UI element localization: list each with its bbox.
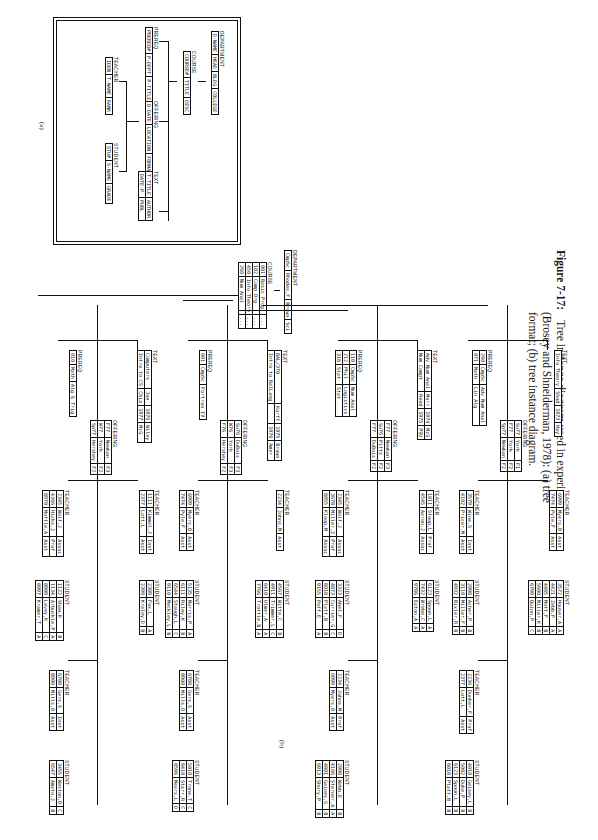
student-record-group: STUDENT2998Webb,EB4166Sterner,AA4801Gain… <box>315 760 350 818</box>
connector <box>508 340 548 341</box>
record-row: 3572Houser,AA <box>557 581 564 635</box>
teacher-record-group-record: 3579Wine,SInst4102Pricer,MAsst <box>459 490 474 554</box>
teacher-record-group-record: 2345Wolf,JAssoc3678Miller,ZProf8855Kloop… <box>322 490 344 557</box>
record-row: 6799Quinn,PC <box>529 581 536 635</box>
record-row: Intro to BalLang1976Amer <box>268 351 275 461</box>
record-row: 2234Johns,MAsst <box>277 491 284 551</box>
record-row: 5600Miller,KB <box>536 581 543 635</box>
connector <box>468 340 508 341</box>
connector <box>198 480 228 481</box>
teacher-record-group-record: 2345Wolf,JAssoc4366Hicks,JProf8970Mottle… <box>42 490 64 557</box>
record-row: 2345Wolf,JAssoc <box>57 491 64 557</box>
teacher-record-group: TEACHER2345Wolf,JAssoc3678Miller,ZProf88… <box>322 490 350 557</box>
offering-record-group-record: Su77YorkF1F77YorkF2Sp77NewkanF2 <box>500 420 522 472</box>
student-record-group-record: 3455Weston,OC6547Amato,JB <box>49 760 64 815</box>
record-row: 212PhilLogistics <box>343 351 350 417</box>
record-row: 6123Spoon,LB <box>453 761 460 815</box>
teacher-record-group: TEACHER2234Johns,MAsst <box>276 490 290 551</box>
student-record-group-record: 5010Trone,TC8410Starr,RC8596Mears,LD <box>172 760 194 812</box>
connector <box>68 480 98 481</box>
text-record-group: TEXTInfo TheoryShod1973Hay <box>554 350 568 437</box>
record-row: F77DuBoisF2 <box>371 421 378 472</box>
offering-record-group-record: Su76DuBoisF3W76YorkF3F76HersheyF2 <box>220 420 242 475</box>
record-row: 4485Mott,FB <box>543 581 550 635</box>
connector <box>68 660 98 661</box>
record-row: 5002Duke,PB <box>460 761 467 815</box>
connector <box>97 305 98 805</box>
student-record-group-record: 3323Abel,FD4873Currier,GC8018Platt,BB915… <box>315 580 344 638</box>
teacher-record-group: TEACHER2234Johns,MProf6999Myers,OAsst <box>329 670 350 731</box>
connector <box>198 660 228 661</box>
record-row: Info TheoryShod1973Hay <box>555 351 562 437</box>
connector <box>378 480 418 481</box>
connector <box>137 340 138 350</box>
connector <box>417 340 418 350</box>
record-row: 8596Mears,LD <box>173 761 180 812</box>
connector <box>227 305 228 805</box>
record-row: 3323Abel,FD <box>337 581 344 638</box>
record-row: F77NewkanF3 <box>385 421 392 472</box>
teacher-record-group: TEACHER3579Wine,SInst4102Pricer,MAsst <box>459 490 480 554</box>
record-row: 2345Wolf,JAssoc <box>337 491 344 557</box>
record-row: 6788Gers,SAsst <box>187 671 194 731</box>
record-row: Num ComptReed1975PSU <box>418 351 425 440</box>
connector <box>377 305 378 805</box>
student-record-group: STUDENT5010Trone,TC8410Starr,RC8596Mears… <box>172 760 200 812</box>
text-record-group-record: BAL/370Korff1975BrownIntro to BalLang197… <box>267 350 282 461</box>
student-record-group: STUDENT3572Houser,AA4421Zebb,FA4485Mott,… <box>528 580 570 635</box>
record-row: Su77YorkF1 <box>515 421 522 472</box>
record-row: 6544Staugh,LC <box>173 581 180 638</box>
connector <box>228 340 268 341</box>
record-row: 3678Miller,ZProf <box>330 491 337 557</box>
record-row: Sp77HersheyF2 <box>91 421 98 475</box>
record-row: 260CmpScAdv Num Anal <box>480 351 487 426</box>
record-row: 001CmpScFortran IV <box>200 351 207 420</box>
student-record-group-record: 1122Shaw,KB1134Arbuckle,PA8909Levey,KC89… <box>35 580 64 641</box>
record-row: W77YorkF2 <box>98 421 105 475</box>
record-row: Sp77NewkanF2 <box>501 421 508 472</box>
text-record-group: TEXTBAL/370Korff1975BrownIntro to BalLan… <box>267 350 288 461</box>
student-record-group-record: 5135Morris,PA6111Riley,KB6544Staugh,LC91… <box>165 580 194 638</box>
record-row: 9155Poff,EA <box>316 581 323 638</box>
record-row: 8410Starr,RC <box>180 761 187 812</box>
record-row: 6410Ulmer,AA <box>263 581 270 638</box>
student-record-group-record: 2998Webb,EB4166Sterner,AA4801Gaines,GB69… <box>315 760 344 818</box>
teacher-record-group-record: 6999Myers,OAsst7474Pyle,FAsst <box>549 490 564 551</box>
record-row: 8997Kramer,TA <box>36 581 43 641</box>
record-row: 4801Gaines,GB <box>323 761 330 818</box>
connector <box>228 480 268 481</box>
student-record-group: STUDENT1122Shaw,KB1134Arbuckle,PA8909Lev… <box>35 580 70 641</box>
record-row: 3455Weston,OC <box>57 761 64 815</box>
student-record-group-record: 4567Witte,CB4911Trimmer,LC6410Ulmer,AA77… <box>255 580 284 638</box>
prereq-record-group-record: 010MathAlg & Trig <box>69 350 77 417</box>
record-row: F77YorkF2 <box>508 421 515 472</box>
connector <box>478 660 508 661</box>
record-row: 6999Myers,OAsst <box>330 671 337 731</box>
teacher-record-group: TEACHER2236Dunker,FProf2377Lott,LAsst <box>459 670 480 734</box>
record-row: 8900Mills,OAsst <box>50 671 57 731</box>
course-branch: PREREQ110CmpScNum Anal212PhilLogistics31… <box>298 0 448 840</box>
record-row: 110CmpScNum Anal <box>350 351 357 417</box>
record-row: 8018Platt,BB <box>323 581 330 638</box>
record-row: 4010Geisey,LB <box>467 761 474 815</box>
student-record-group: STUDENT5135Morris,PA6111Riley,KB6544Stau… <box>165 580 200 638</box>
student-record-group: STUDENT3323Abel,FD4873Currier,GC8018Plat… <box>315 580 350 638</box>
prereq-record-group: PREREQ010MathAlg & Trig <box>69 350 83 417</box>
record-row: 2236Dunker,FProf <box>467 671 474 734</box>
student-record-group-record: 3572Houser,AA4421Zebb,FA4485Mott,FB5600M… <box>528 580 564 635</box>
offering-record-group: OFFERINGF77NewkanF3Su76PittsF2F77DuBoisF… <box>370 420 398 472</box>
teacher-record-group-record: 6999Myers,OAsst7474Pyle,FAsst <box>179 490 194 551</box>
prereq-record-group-record: 260CmpScAdv Num Anal071MathLin Alg <box>472 350 487 426</box>
record-row: 4911Trimmer,LC <box>270 581 277 638</box>
teacher-record-group-record: 2234Johns,MProf6999Myers,OAsst <box>329 670 344 731</box>
prereq-record-group: PREREQ001CmpScFortran IV <box>199 350 213 420</box>
record-row: 2377Lott,LAsst <box>460 671 467 734</box>
prereq-record-group-record: 110CmpScNum Anal212PhilLogistics318StatS… <box>335 350 357 417</box>
record-row: 8855Kloop,MAssoc <box>323 491 330 557</box>
record-row: 4545Aaron,JAssoc <box>420 491 427 554</box>
record-row: F77NewkanF3 <box>105 421 112 475</box>
record-row: 2998Webb,EB <box>337 761 344 818</box>
record-row: 8018Platt,BB <box>446 761 453 815</box>
record-row: 2998Acher,PB <box>467 581 474 635</box>
connector <box>507 305 508 805</box>
